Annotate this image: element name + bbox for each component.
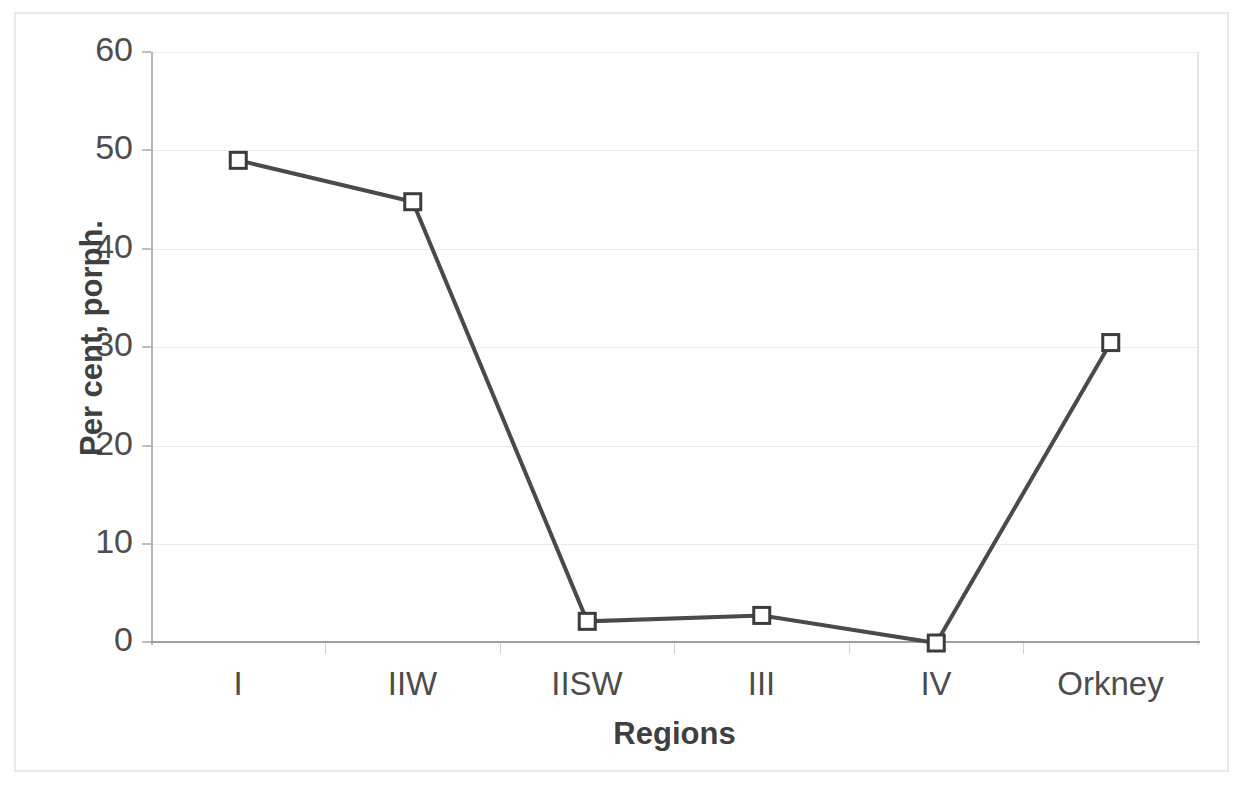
- y-tick-label-0: 0: [35, 620, 133, 659]
- y-tick-mark-60: [142, 51, 151, 53]
- y-tick-mark-40: [142, 248, 151, 250]
- x-tick-label-IV: IV: [849, 665, 1023, 703]
- x-tick-mark-4: [849, 643, 850, 654]
- x-tick-label-IISW: IISW: [500, 665, 674, 703]
- plot-border-top: [151, 52, 1200, 53]
- gridline-50: [151, 150, 1198, 151]
- gridline-10: [151, 544, 1198, 545]
- y-tick-label-10: 10: [35, 522, 133, 561]
- y-tick-mark-50: [142, 149, 151, 151]
- figure-border: [14, 12, 1229, 772]
- gridline-20: [151, 446, 1198, 447]
- plot-border-right: [1197, 52, 1199, 645]
- y-tick-mark-0: [142, 641, 151, 643]
- x-tick-label-Orkney: Orkney: [1023, 665, 1198, 703]
- y-axis-line: [151, 52, 153, 645]
- x-tick-mark-2: [500, 643, 501, 654]
- y-tick-mark-10: [142, 543, 151, 545]
- chart-figure: 60 50 40 30 20 10 0 I IIW IISW III IV Or…: [0, 0, 1243, 786]
- y-tick-label-60: 60: [35, 30, 133, 69]
- x-tick-mark-1: [325, 643, 326, 654]
- x-tick-label-IIW: IIW: [325, 665, 500, 703]
- y-tick-mark-20: [142, 445, 151, 447]
- x-tick-label-III: III: [674, 665, 849, 703]
- gridline-40: [151, 249, 1198, 250]
- x-axis-title: Regions: [151, 716, 1198, 752]
- y-axis-title: Per cent, porph.: [74, 158, 110, 518]
- x-tick-mark-3: [674, 643, 675, 654]
- x-tick-mark-5: [1023, 643, 1024, 654]
- x-axis-line: [151, 641, 1200, 643]
- gridline-30: [151, 347, 1198, 348]
- x-tick-label-I: I: [151, 665, 325, 703]
- y-tick-mark-30: [142, 346, 151, 348]
